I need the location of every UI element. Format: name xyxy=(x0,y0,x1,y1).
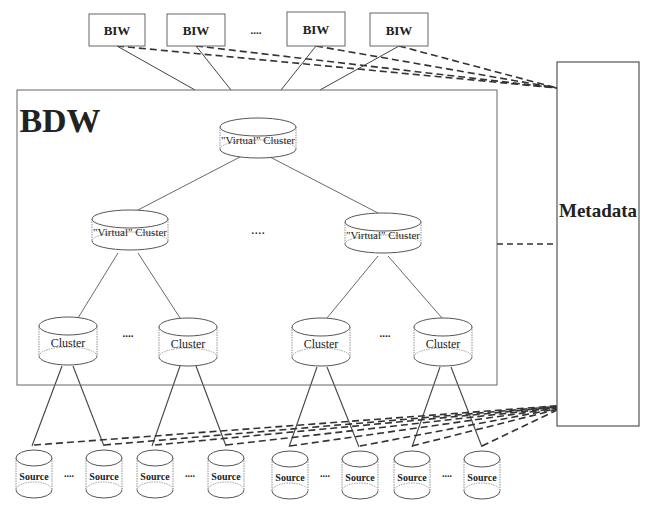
cluster-source-line xyxy=(196,366,226,446)
virtual-cluster-node: "Virtual" Cluster xyxy=(220,118,296,158)
bdw-title: BDW xyxy=(19,102,100,139)
source-node: Source xyxy=(464,451,500,499)
virtual-cluster-node-label: "Virtual" Cluster xyxy=(221,134,295,146)
tree-edge xyxy=(136,157,240,211)
source-node-label: Source xyxy=(275,472,305,483)
cluster-node: Cluster xyxy=(414,318,472,366)
biw-metadata-dash xyxy=(316,46,557,88)
source-node-label: Source xyxy=(19,471,49,482)
metadata-label: Metadata xyxy=(559,200,638,221)
source-node: Source xyxy=(86,450,122,498)
biw-bdw-line xyxy=(281,46,316,90)
cluster-node: Cluster xyxy=(39,317,97,365)
virtual-cluster-node: "Virtual" Cluster xyxy=(345,213,421,253)
biw-node: BIW xyxy=(287,12,345,46)
source-node-label: Source xyxy=(467,472,497,483)
tree-edge xyxy=(327,256,378,318)
biw-bdw-line xyxy=(196,46,231,90)
source-node-label: Source xyxy=(140,471,170,482)
virtual-cluster-node-label: "Virtual" Cluster xyxy=(93,226,167,238)
cluster-node-label: Cluster xyxy=(51,336,86,350)
cluster-node-label: Cluster xyxy=(171,337,206,351)
source-node: Source xyxy=(16,450,52,498)
architecture-diagram: BDWMetadataBIWBIWBIWBIW........"Virtual"… xyxy=(0,0,651,515)
tree-edge xyxy=(138,253,180,318)
source-metadata-dash xyxy=(104,406,557,445)
virtual-cluster-node-label: "Virtual" Cluster xyxy=(346,229,420,241)
cluster-node-label: Cluster xyxy=(426,337,461,351)
source-ellipsis: .... xyxy=(442,468,453,479)
tree-edge xyxy=(78,253,118,318)
tree-edge xyxy=(388,256,442,318)
source-ellipsis: .... xyxy=(185,468,196,479)
cluster-source-line xyxy=(152,366,180,446)
tree-edge xyxy=(270,157,378,213)
source-node: Source xyxy=(342,451,378,499)
biw-label: BIW xyxy=(104,23,131,38)
cluster-node: Cluster xyxy=(159,318,217,366)
biw-metadata-dash xyxy=(399,46,557,88)
source-ellipsis: .... xyxy=(64,468,75,479)
cluster-node: Cluster xyxy=(292,318,350,366)
biw-label: BIW xyxy=(303,22,330,37)
cluster-ellipsis: .... xyxy=(380,327,391,339)
biw-label: BIW xyxy=(386,23,413,38)
cluster-source-line xyxy=(73,366,104,446)
biw-node: BIW xyxy=(167,14,225,46)
biw-node: BIW xyxy=(89,14,145,46)
source-node: Source xyxy=(394,451,430,499)
biw-ellipsis: .... xyxy=(251,24,262,36)
virtual-ellipsis: .... xyxy=(251,222,265,237)
source-ellipsis: .... xyxy=(320,468,331,479)
metadata-box xyxy=(557,62,639,426)
source-node: Source xyxy=(272,451,308,499)
cluster-source-line xyxy=(289,367,317,447)
biw-node: BIW xyxy=(370,13,428,46)
virtual-cluster-node: "Virtual" Cluster xyxy=(92,210,168,250)
cluster-ellipsis: .... xyxy=(123,327,134,339)
source-node-label: Source xyxy=(397,472,427,483)
biw-metadata-dash xyxy=(196,46,557,88)
source-node: Source xyxy=(137,450,173,498)
source-node-label: Source xyxy=(211,471,241,482)
cluster-source-line xyxy=(32,366,62,446)
source-node: Source xyxy=(208,450,244,498)
biw-label: BIW xyxy=(183,23,210,38)
source-node-label: Source xyxy=(89,471,119,482)
biw-metadata-dash xyxy=(117,46,557,88)
cluster-node-label: Cluster xyxy=(304,337,339,351)
cluster-source-line xyxy=(327,367,359,447)
source-node-label: Source xyxy=(345,472,375,483)
